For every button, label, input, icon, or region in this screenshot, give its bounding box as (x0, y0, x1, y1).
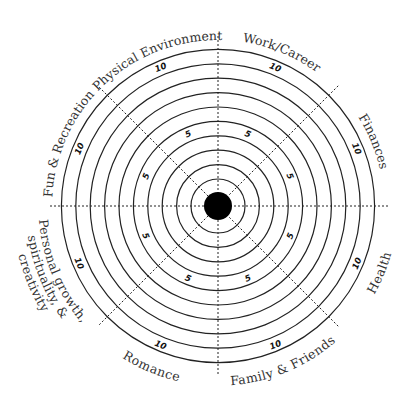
scale-mark-5: 5 (284, 231, 296, 240)
scale-mark-5: 5 (243, 128, 252, 140)
sector-label: Finances (356, 111, 392, 170)
scale-mark-5: 5 (183, 272, 192, 284)
wheel-of-life-diagram: 510510510510510510510510 Work/CareerFina… (0, 0, 411, 400)
scale-mark-5: 5 (284, 171, 296, 180)
center-hub (204, 192, 232, 220)
scale-mark-5: 5 (183, 128, 192, 140)
sector-label: Romance (120, 348, 181, 385)
scale-mark-5: 5 (140, 171, 152, 180)
sector-label: Health (364, 250, 395, 296)
scale-mark-5: 5 (243, 272, 252, 284)
sector-label: Physical Environment (89, 28, 222, 94)
scale-mark-5: 5 (140, 231, 152, 240)
sector-label: Fun & Recreation (40, 87, 97, 198)
